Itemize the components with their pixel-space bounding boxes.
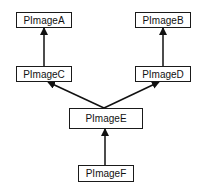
node-label: PImageE bbox=[85, 113, 126, 124]
node-pimage-e: PImageE bbox=[69, 108, 143, 129]
edge-e-to-c bbox=[48, 82, 104, 108]
node-pimage-d: PImageD bbox=[135, 66, 191, 82]
node-pimage-a: PImageA bbox=[16, 12, 72, 28]
node-label: PImageF bbox=[86, 168, 127, 179]
node-label: PImageB bbox=[142, 15, 183, 26]
node-label: PImageA bbox=[23, 15, 64, 26]
edge-e-to-d bbox=[104, 82, 159, 108]
node-pimage-f: PImageF bbox=[78, 165, 134, 182]
node-label: PImageC bbox=[23, 69, 65, 80]
node-pimage-c: PImageC bbox=[16, 66, 72, 82]
node-pimage-b: PImageB bbox=[135, 12, 191, 28]
node-label: PImageD bbox=[142, 69, 184, 80]
